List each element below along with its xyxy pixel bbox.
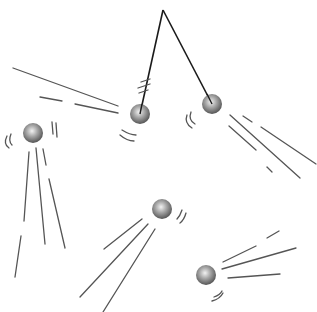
pendulum-strings bbox=[140, 10, 212, 114]
free-balls bbox=[23, 123, 216, 285]
motion-lines-bottom-right-ball bbox=[212, 231, 296, 301]
illustration-canvas bbox=[0, 0, 317, 312]
motion-lines-center-ball bbox=[80, 210, 186, 312]
motion-lines-right-bob bbox=[186, 112, 316, 178]
pendulum-illustration bbox=[0, 0, 317, 312]
ball-far-left bbox=[23, 123, 43, 143]
ball-center bbox=[152, 199, 172, 219]
motion-lines-far-left-ball bbox=[5, 122, 65, 277]
string-ends bbox=[140, 94, 212, 114]
ball-bottom-right bbox=[196, 265, 216, 285]
